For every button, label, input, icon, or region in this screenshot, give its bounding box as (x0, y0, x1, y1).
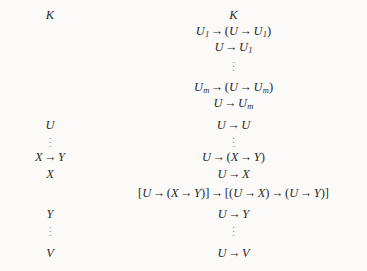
premise-column: K U . . . X→Y X Y . . . V (0, 0, 100, 271)
term-y: Y (254, 150, 261, 164)
dot-glyph: . (100, 230, 367, 234)
derivation-line-k: K (100, 8, 367, 22)
formula-k: K (46, 8, 54, 22)
term-v: V (242, 246, 250, 260)
derivation-line-u-implies-x: U→X (100, 167, 367, 181)
premise-line-k: K (0, 8, 100, 22)
dot-glyph: . (0, 141, 100, 145)
term-u: U (241, 118, 250, 132)
term-x: X (171, 186, 179, 200)
arrow-icon: → (238, 24, 254, 38)
close-bracket: ] (325, 186, 329, 200)
formula-x: X (46, 167, 54, 181)
premise-line-v: V (0, 246, 100, 260)
arrow-icon: → (226, 246, 242, 260)
arrow-icon: → (209, 80, 225, 94)
arrow-icon: → (209, 186, 225, 200)
term-u-sub-m: Um (238, 96, 253, 110)
proof-figure: K U . . . X→Y X Y . . . V K (0, 0, 367, 271)
term-y: Y (194, 186, 201, 200)
term-u: U (142, 186, 151, 200)
derivation-line-u1-axiom: U1→(U→U1) (100, 24, 367, 41)
term-u: U (215, 40, 224, 54)
arrow-icon: → (238, 80, 254, 94)
term-u-sub-1: U1 (196, 24, 209, 38)
term-u: U (218, 207, 227, 221)
dot-glyph: . (0, 230, 100, 234)
arrow-icon: → (224, 40, 240, 54)
close-paren: ) (269, 80, 273, 94)
term-y: Y (242, 207, 249, 221)
term-x: X (242, 167, 250, 181)
derivation-line-u-implies-x-implies-y: U→(X→Y) (100, 150, 367, 164)
term-u: U (229, 24, 238, 38)
close-paren: ) (267, 24, 271, 38)
term-u: U (233, 186, 242, 200)
consequent-y: Y (58, 150, 65, 164)
arrow-icon: → (270, 186, 286, 200)
vertical-dots-premise-1: . . . (0, 133, 100, 145)
formula-v: V (46, 246, 54, 260)
arrow-icon: → (179, 186, 195, 200)
arrow-icon: → (242, 186, 258, 200)
arrow-icon: → (238, 150, 254, 164)
term-u: U (214, 96, 223, 110)
term-u-sub-1: U1 (239, 40, 252, 54)
term-u: U (217, 118, 226, 132)
vertical-dots-derivation-3: . . . (100, 222, 367, 234)
dot-glyph: . (100, 65, 367, 69)
derivation-line-distribution-axiom: [U→(X→Y)]→[(U→X)→(U→Y)] (100, 186, 367, 200)
arrow-icon: → (223, 96, 239, 110)
formula-k: K (229, 8, 237, 22)
term-y: Y (314, 186, 321, 200)
close-paren: ) (261, 150, 265, 164)
vertical-dots-derivation-1: . . . (100, 57, 367, 69)
term-u-sub-m: Um (194, 80, 209, 94)
term-u: U (229, 80, 238, 94)
arrow-icon: → (209, 24, 225, 38)
term-u-sub-m: Um (254, 80, 269, 94)
arrow-icon: → (226, 167, 242, 181)
term-u: U (289, 186, 298, 200)
arrow-icon: → (298, 186, 314, 200)
dot-glyph: . (100, 141, 367, 145)
term-u: U (202, 150, 211, 164)
arrow-icon: → (151, 186, 167, 200)
derivation-line-u-implies-v: U→V (100, 246, 367, 260)
derivation-line-um-axiom: Um→(U→Um) (100, 80, 367, 97)
vertical-dots-derivation-2: . . . (100, 133, 367, 145)
derivation-line-u-implies-um: U→Um (100, 96, 367, 113)
term-u-sub-1: U1 (254, 24, 267, 38)
arrow-icon: → (43, 150, 59, 164)
derivation-column: K U1→(U→U1) U→U1 . . . Um→(U→Um) U→Um U→… (100, 0, 367, 271)
vertical-dots-premise-2: . . . (0, 222, 100, 234)
premise-line-x-implies-y: X→Y (0, 150, 100, 164)
arrow-icon: → (211, 150, 227, 164)
premise-line-x: X (0, 167, 100, 181)
close-paren: ) (265, 186, 269, 200)
antecedent-x: X (35, 150, 43, 164)
